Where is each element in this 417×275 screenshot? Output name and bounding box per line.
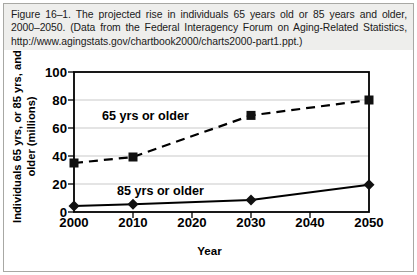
series-65-marker-2000 — [70, 159, 79, 168]
figure-caption-text: Figure 16–1. The projected rise in indiv… — [11, 8, 407, 48]
series-65-marker-2010 — [129, 153, 138, 162]
series-label-85-yrs: 85 yrs or older — [117, 184, 204, 198]
plot-area: 65 yrs or older 85 yrs or older — [4, 50, 415, 272]
series-65-marker-2050 — [365, 96, 374, 105]
figure-caption-box: Figure 16–1. The projected rise in indiv… — [3, 3, 414, 50]
chart-frame: Individuals 65 yrs, or 85 yrs, and older… — [3, 50, 414, 272]
series-65-marker-2030 — [247, 111, 256, 120]
series-label-65-yrs: 65 yrs or older — [102, 109, 189, 123]
figure-container: Figure 16–1. The projected rise in indiv… — [0, 0, 417, 275]
x-axis-title: Year — [4, 244, 415, 257]
